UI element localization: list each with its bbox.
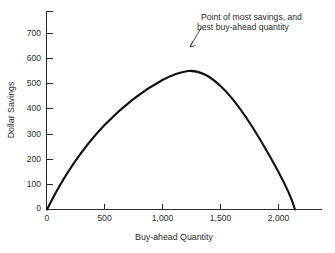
x-axis-title: Buy-ahead Quantity xyxy=(135,232,213,242)
y-tick-label-400: 400 xyxy=(27,103,42,113)
peak-annotation: Point of most savings, and best buy-ahea… xyxy=(190,12,302,47)
y-tick-label-700: 700 xyxy=(27,28,42,38)
x-axis: 0 500 1,000 1,500 2,000 Buy-ahead Quanti… xyxy=(45,204,322,242)
y-tick-label-200: 200 xyxy=(27,154,42,164)
x-tick-label-0: 0 xyxy=(45,213,50,223)
y-tick-label-0: 0 xyxy=(36,203,41,213)
y-axis-title: Dollar Savings xyxy=(6,81,16,138)
x-tick-label-1000: 1,000 xyxy=(152,213,174,223)
x-tick-label-1500: 1,500 xyxy=(210,213,232,223)
savings-curve-path xyxy=(47,71,295,210)
annotation-line-1: Point of most savings, and xyxy=(201,12,302,22)
y-tick-label-500: 500 xyxy=(27,78,42,88)
x-tick-label-2000: 2,000 xyxy=(268,213,290,223)
annotation-line-2: best buy-ahead quantity xyxy=(197,22,289,32)
y-axis: 700 600 500 400 300 200 100 0 Dollar Sav… xyxy=(6,11,53,213)
y-tick-label-100: 100 xyxy=(27,179,42,189)
y-tick-label-600: 600 xyxy=(27,53,42,63)
savings-curve-chart: 700 600 500 400 300 200 100 0 Dollar Sav… xyxy=(0,0,335,253)
x-tick-label-500: 500 xyxy=(97,213,112,223)
data-series-savings-curve xyxy=(47,71,295,210)
chart-figure: 700 600 500 400 300 200 100 0 Dollar Sav… xyxy=(0,0,335,253)
y-tick-label-300: 300 xyxy=(27,129,42,139)
